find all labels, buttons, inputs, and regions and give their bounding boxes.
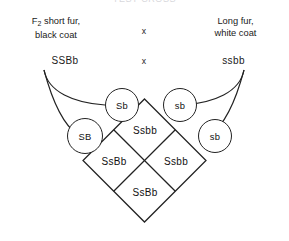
- punnett-cell-right: Ssbb: [145, 156, 207, 167]
- punnett-cell-bottom: SsBb: [114, 187, 176, 198]
- gamete-label-Sb: Sb: [116, 100, 128, 111]
- punnett-cell-left: SsBb: [83, 156, 145, 167]
- gamete-circle-SB: SB: [67, 118, 103, 154]
- connector-lines-and-grid: [0, 0, 289, 241]
- gamete-label-sb-lower: sb: [210, 131, 221, 142]
- punnett-cell-top: Ssbb: [114, 125, 176, 136]
- gamete-label-SB: SB: [78, 131, 91, 142]
- gamete-circle-sb-lower: sb: [198, 119, 232, 153]
- punnett-square-diagram: TEST CROSS F2 short fur, black coat Long…: [0, 0, 289, 241]
- gamete-circle-sb-upper: sb: [163, 88, 197, 122]
- gamete-circle-Sb: Sb: [105, 88, 139, 122]
- gamete-label-sb-upper: sb: [175, 100, 186, 111]
